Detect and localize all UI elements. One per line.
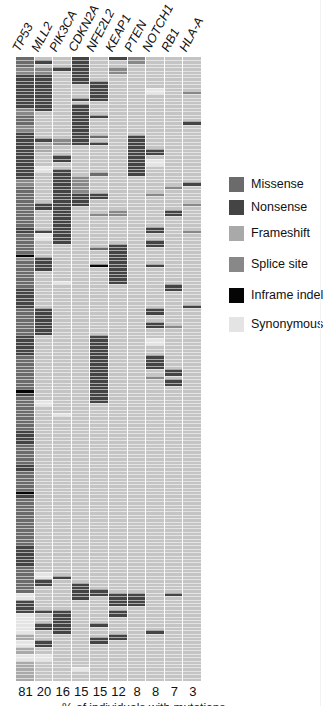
row-divider <box>90 311 108 312</box>
row-divider <box>165 288 183 289</box>
row-divider <box>53 308 71 309</box>
row-divider <box>128 315 146 316</box>
row-divider <box>183 664 201 665</box>
row-divider <box>183 657 201 658</box>
row-divider <box>109 488 127 489</box>
row-divider <box>109 162 127 163</box>
mutation-cell <box>16 57 34 67</box>
row-divider <box>183 233 201 234</box>
row-divider <box>165 511 183 512</box>
row-divider <box>146 481 164 482</box>
row-divider <box>90 152 108 153</box>
row-divider <box>128 125 146 126</box>
row-divider <box>146 542 164 543</box>
row-divider <box>35 345 53 346</box>
row-divider <box>165 118 183 119</box>
row-divider <box>165 98 183 99</box>
row-divider <box>183 104 201 105</box>
row-divider <box>128 189 146 190</box>
row-divider <box>90 104 108 105</box>
row-divider <box>53 606 71 607</box>
row-divider <box>16 267 34 268</box>
row-divider <box>53 264 71 265</box>
row-divider <box>183 613 201 614</box>
row-divider <box>53 505 71 506</box>
row-divider <box>128 132 146 133</box>
row-divider <box>109 589 127 590</box>
row-divider <box>72 589 90 590</box>
row-divider <box>146 671 164 672</box>
count-pik3ca: 16 <box>54 684 72 699</box>
row-divider <box>128 393 146 394</box>
row-divider <box>128 386 146 387</box>
row-divider <box>128 274 146 275</box>
row-divider <box>53 81 71 82</box>
row-divider <box>16 369 34 370</box>
row-divider <box>90 511 108 512</box>
row-divider <box>165 349 183 350</box>
row-divider <box>183 393 201 394</box>
row-divider <box>128 515 146 516</box>
row-divider <box>146 115 164 116</box>
row-divider <box>90 345 108 346</box>
row-divider <box>35 416 53 417</box>
row-divider <box>183 328 201 329</box>
row-divider <box>109 172 127 173</box>
row-divider <box>128 182 146 183</box>
row-divider <box>90 549 108 550</box>
row-divider <box>183 298 201 299</box>
count-keap1: 12 <box>110 684 128 699</box>
row-divider <box>53 227 71 228</box>
row-divider <box>165 667 183 668</box>
row-divider <box>72 288 90 289</box>
row-divider <box>165 335 183 336</box>
row-divider <box>72 450 90 451</box>
row-divider <box>90 172 108 173</box>
row-divider <box>35 118 53 119</box>
row-divider <box>183 71 201 72</box>
row-divider <box>53 559 71 560</box>
row-divider <box>35 535 53 536</box>
row-divider <box>35 569 53 570</box>
row-divider <box>90 413 108 414</box>
row-divider <box>90 145 108 146</box>
row-divider <box>16 132 34 133</box>
row-divider <box>183 654 201 655</box>
row-divider <box>128 342 146 343</box>
row-divider <box>128 433 146 434</box>
row-divider <box>109 118 127 119</box>
row-divider <box>72 84 90 85</box>
row-divider <box>90 440 108 441</box>
row-divider <box>16 152 34 153</box>
row-divider <box>183 179 201 180</box>
row-divider <box>35 186 53 187</box>
row-divider <box>35 162 53 163</box>
row-divider <box>109 410 127 411</box>
row-divider <box>72 71 90 72</box>
row-divider <box>35 359 53 360</box>
row-divider <box>90 308 108 309</box>
row-divider <box>72 593 90 594</box>
row-divider <box>146 464 164 465</box>
row-divider <box>53 556 71 557</box>
row-divider <box>90 298 108 299</box>
row-divider <box>90 267 108 268</box>
row-divider <box>90 247 108 248</box>
row-divider <box>72 634 90 635</box>
row-divider <box>35 294 53 295</box>
row-divider <box>109 437 127 438</box>
row-divider <box>72 556 90 557</box>
row-divider <box>165 630 183 631</box>
row-divider <box>128 159 146 160</box>
row-divider <box>109 250 127 251</box>
row-divider <box>16 94 34 95</box>
row-divider <box>53 454 71 455</box>
row-divider <box>72 277 90 278</box>
row-divider <box>109 271 127 272</box>
row-divider <box>183 149 201 150</box>
row-divider <box>183 189 201 190</box>
row-divider <box>90 281 108 282</box>
row-divider <box>35 203 53 204</box>
row-divider <box>183 647 201 648</box>
row-divider <box>35 77 53 78</box>
